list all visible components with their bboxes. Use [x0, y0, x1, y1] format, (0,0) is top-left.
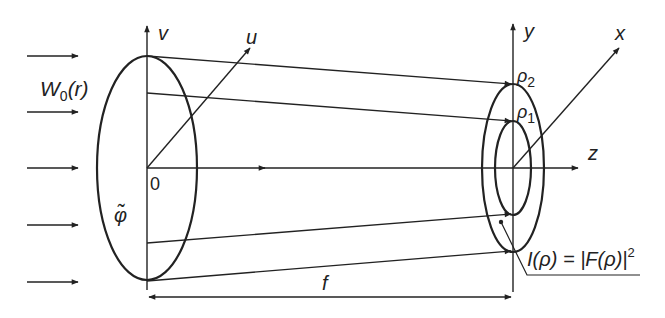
- intensity-label: I(ρ) = |F(ρ)|2: [527, 245, 635, 270]
- z-axis-label: z: [587, 142, 598, 164]
- ray-outer-bottom: [147, 251, 511, 281]
- u-axis-label: u: [246, 26, 257, 48]
- ray-outer-top: [147, 56, 511, 84]
- x-axis: [513, 48, 619, 168]
- optics-diagram: W0(r) v u z 0 φ̃ y x ρ2 ρ1 I(ρ) = |F(ρ)|…: [0, 0, 665, 318]
- phase-label: φ̃: [114, 203, 127, 226]
- ray-inner-top: [147, 93, 511, 121]
- ray-inner-bottom: [147, 214, 511, 243]
- x-axis-label: x: [614, 22, 626, 44]
- y-axis-label: y: [522, 20, 535, 42]
- incident-beam-label: W0(r): [40, 77, 89, 104]
- v-axis-label: v: [158, 22, 169, 44]
- u-axis: [147, 48, 250, 168]
- focal-distance-label: f: [322, 272, 330, 294]
- origin-label: 0: [150, 174, 160, 194]
